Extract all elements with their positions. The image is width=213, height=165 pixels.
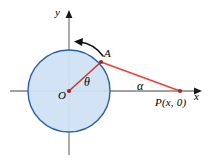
angle-theta-label: θ: [84, 76, 90, 88]
point-A-dot: [99, 60, 103, 64]
angle-alpha-label: α: [137, 80, 143, 92]
y-axis-arrowhead: [66, 10, 73, 18]
figure-canvas: [0, 0, 213, 165]
geometry-figure: y x O A θ α P(x, 0): [0, 0, 213, 165]
point-A-label: A: [104, 48, 111, 59]
y-axis-label: y: [55, 7, 60, 18]
point-P-dot: [178, 89, 182, 93]
origin-label: O: [58, 90, 66, 101]
point-P-label: P(x, 0): [155, 97, 186, 108]
point-O-dot: [67, 89, 71, 93]
counterclockwise-arrow-head: [74, 38, 83, 46]
x-axis-label: x: [194, 91, 199, 102]
